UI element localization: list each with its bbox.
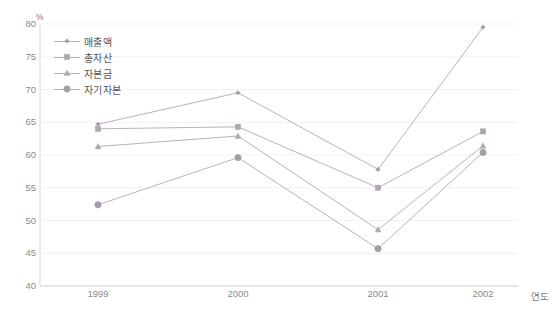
legend-marker-glyph (60, 51, 74, 63)
x-tick-label: 1999 (73, 289, 123, 299)
data-point-marker-diamond (236, 90, 241, 95)
legend-item-2[interactable]: 자본금 (54, 66, 122, 80)
y-tick-label: 80 (0, 19, 36, 29)
legend-label: 자본금 (84, 66, 112, 81)
legend-marker-glyph (60, 35, 74, 47)
legend-item-1[interactable]: 총자산 (54, 50, 122, 64)
data-point-marker-square (375, 185, 380, 190)
x-tick-label: 2002 (458, 289, 508, 299)
legend-label: 매출액 (84, 34, 112, 49)
y-tick-label: 55 (0, 183, 36, 193)
y-axis-unit-label: % (36, 12, 44, 22)
data-point-marker-circle (235, 154, 241, 160)
data-point-marker-square (64, 54, 69, 59)
x-axis-title: 연도 (531, 289, 549, 303)
y-tick-label: 70 (0, 85, 36, 95)
y-tick-label: 75 (0, 52, 36, 62)
y-tick-label: 65 (0, 117, 36, 127)
series-line (98, 127, 483, 188)
legend-label: 총자산 (84, 50, 112, 65)
data-point-marker-square (95, 126, 100, 131)
data-point-marker-circle (95, 202, 101, 208)
data-point-marker-diamond (65, 39, 70, 44)
y-tick-label: 45 (0, 248, 36, 258)
legend-marker-glyph (60, 83, 74, 95)
data-point-marker-triangle (64, 70, 70, 75)
legend-marker-glyph (60, 67, 74, 79)
legend-item-0[interactable]: 매출액 (54, 34, 122, 48)
legend-marker-square-icon (54, 51, 80, 63)
y-tick-label: 50 (0, 216, 36, 226)
x-tick-label: 2000 (213, 289, 263, 299)
legend-marker-circle-icon (54, 83, 80, 95)
line-chart: % 404550556065707580 1999200020012002 연도… (0, 0, 553, 321)
legend-marker-triangle-icon (54, 67, 80, 79)
legend-item-3[interactable]: 자기자본 (54, 82, 122, 96)
data-point-marker-circle (64, 86, 70, 92)
data-point-marker-square (235, 124, 240, 129)
y-tick-label: 60 (0, 150, 36, 160)
legend-marker-diamond-icon (54, 35, 80, 47)
y-tick-label: 40 (0, 281, 36, 291)
series-line (98, 27, 483, 169)
data-point-marker-circle (375, 245, 381, 251)
chart-legend: 매출액총자산자본금자기자본 (54, 34, 122, 96)
series-3 (95, 149, 486, 252)
data-point-marker-square (480, 129, 485, 134)
data-point-marker-triangle (480, 143, 486, 148)
series-line (98, 152, 483, 248)
x-tick-label: 2001 (353, 289, 403, 299)
series-2 (95, 133, 486, 232)
series-1 (95, 124, 485, 190)
legend-label: 자기자본 (84, 82, 122, 97)
chart-title-clipped (100, 0, 450, 6)
data-point-marker-circle (480, 149, 486, 155)
